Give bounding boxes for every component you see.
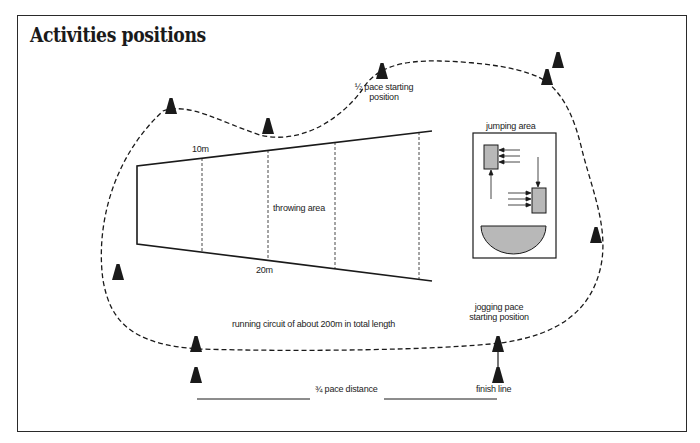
cone-left-icon bbox=[112, 264, 124, 280]
cone-top-right-lower-icon bbox=[541, 69, 553, 85]
cone-bottom-left-upper-icon bbox=[190, 336, 202, 352]
label-finish-line: finish line bbox=[476, 384, 511, 394]
label-throwing-area: throwing area bbox=[273, 203, 325, 213]
cone-top-left-icon bbox=[165, 98, 177, 114]
cone-top-right-upper-icon bbox=[552, 52, 564, 68]
label-jogging-pace-line1: jogging pace bbox=[460, 302, 538, 312]
label-three-quarter-pace: ¾ pace distance bbox=[315, 384, 378, 394]
cone-finish-icon bbox=[492, 367, 504, 383]
diagram-canvas bbox=[0, 0, 700, 443]
label-half-pace: ½ pace starting position bbox=[350, 82, 418, 102]
label-jogging-pace-line2: starting position bbox=[460, 312, 538, 322]
label-20m: 20m bbox=[256, 265, 273, 275]
jumping-area bbox=[473, 133, 556, 258]
cone-half-pace-icon bbox=[376, 63, 388, 79]
cone-bottom-left-lower-icon bbox=[190, 367, 202, 383]
label-half-pace-line2: position bbox=[350, 92, 418, 102]
label-half-pace-line1: ½ pace starting bbox=[350, 82, 418, 92]
cone-right-icon bbox=[590, 227, 602, 243]
label-running-circuit: running circuit of about 200m in total l… bbox=[232, 319, 395, 329]
label-10m: 10m bbox=[192, 144, 209, 154]
label-jumping-area: jumping area bbox=[486, 121, 536, 131]
label-jogging-pace: jogging pace starting position bbox=[460, 302, 538, 322]
cone-top-mid-icon bbox=[262, 118, 274, 134]
